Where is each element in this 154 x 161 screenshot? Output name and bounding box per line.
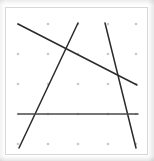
grid-dot [47,23,50,26]
grid-dot [77,83,80,86]
grid-dot [107,83,110,86]
grid-dot [17,83,20,86]
figure-canvas [0,0,154,161]
line-group [18,23,138,148]
grid-dot [47,53,50,56]
right-steep-line [105,23,136,148]
grid-dot [17,53,20,56]
dot-grid [17,23,138,146]
grid-dot [107,23,110,26]
grid-dot [77,143,80,146]
grid-dot [135,23,138,26]
grid-dot [107,53,110,56]
descending-diagonal-line [18,24,137,85]
grid-dot [107,143,110,146]
grid-dot [47,143,50,146]
left-steep-line [19,23,78,148]
grid-dot [135,53,138,56]
figure-root [0,0,154,161]
grid-dot [17,143,20,146]
